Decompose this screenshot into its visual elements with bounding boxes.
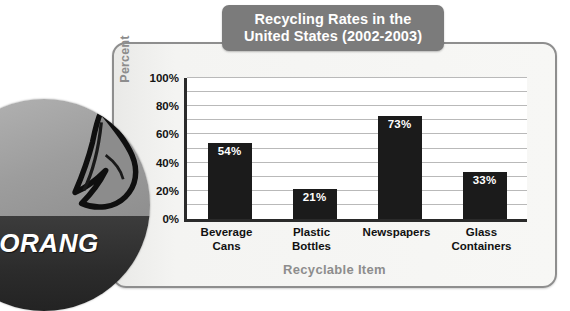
x-axis-tick-labels: BeverageCansPlasticBottlesNewspapersGlas… <box>184 226 524 264</box>
badge-streak <box>0 99 1 180</box>
x-axis-tick: BeverageCans <box>184 226 269 253</box>
x-axis-tick-line: Newspapers <box>354 226 439 240</box>
chart-title: Recycling Rates in the United States (20… <box>222 5 444 51</box>
x-axis-title: Recyclable Item <box>112 262 557 277</box>
x-axis-tick-line: Cans <box>184 240 269 254</box>
bar-value-label: 54% <box>208 145 252 157</box>
bar: 54% <box>208 143 252 219</box>
leaf-icon <box>44 107 150 238</box>
badge-wordmark: ORANG <box>0 228 150 259</box>
bar: 33% <box>463 172 507 219</box>
bar: 73% <box>378 116 422 219</box>
x-axis-tick-line: Beverage <box>184 226 269 240</box>
bar-series: 54%21%73%33% <box>187 78 527 219</box>
corner-badge-graphic: ORANG <box>0 99 150 311</box>
x-axis-tick: GlassContainers <box>439 226 524 253</box>
chart-title-line-2: United States (2002-2003) <box>244 28 422 45</box>
chart-title-line-1: Recycling Rates in the <box>255 11 412 28</box>
x-axis-tick-line: Bottles <box>269 240 354 254</box>
bar-value-label: 73% <box>378 118 422 130</box>
bar-value-label: 21% <box>293 191 337 203</box>
bar-value-label: 33% <box>463 174 507 186</box>
bar: 21% <box>293 189 337 219</box>
plot-area: 54%21%73%33% <box>184 78 527 222</box>
x-axis-tick-line: Plastic <box>269 226 354 240</box>
y-axis-title: Percent <box>118 14 134 104</box>
y-axis-tick: 100% <box>133 72 179 84</box>
x-axis-tick: Newspapers <box>354 226 439 240</box>
x-axis-tick-line: Containers <box>439 240 524 254</box>
x-axis-tick: PlasticBottles <box>269 226 354 253</box>
x-axis-tick-line: Glass <box>439 226 524 240</box>
